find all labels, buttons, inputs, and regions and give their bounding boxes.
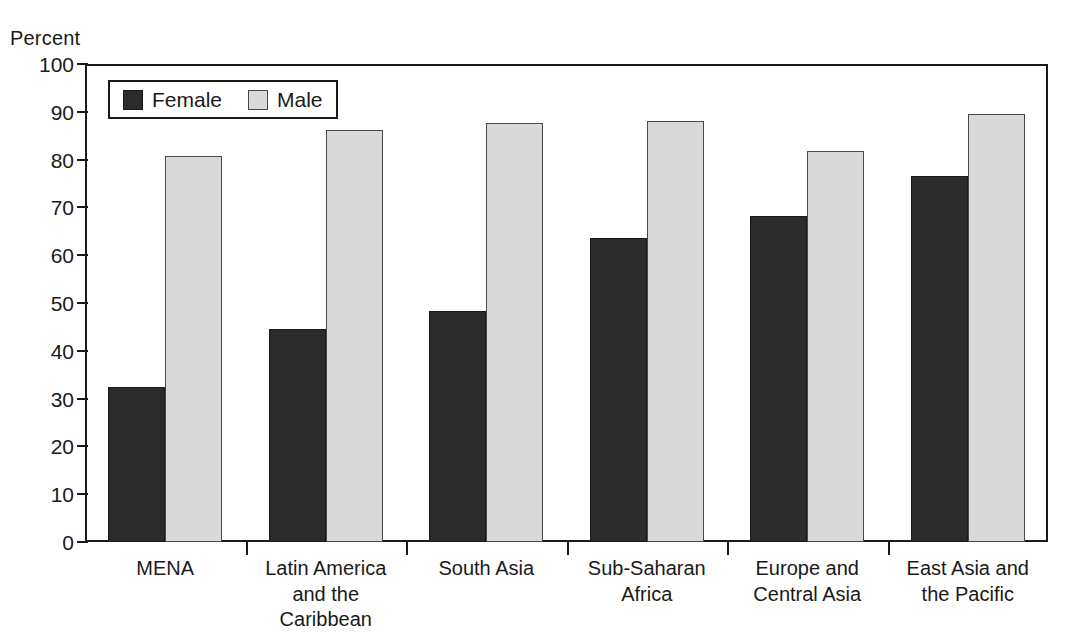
x-axis-label: MENA — [85, 556, 246, 582]
x-axis-label: Europe and Central Asia — [727, 556, 888, 607]
bar-male — [165, 156, 222, 542]
x-tick-mark — [888, 542, 890, 555]
x-axis-label: South Asia — [406, 556, 567, 582]
x-tick-mark — [246, 542, 248, 555]
y-tick-label: 70 — [51, 197, 74, 218]
legend-item-female: Female — [123, 89, 222, 110]
bar-male — [486, 123, 543, 542]
legend-swatch-female-icon — [123, 90, 143, 110]
bar-female — [429, 311, 486, 542]
bar-group — [750, 64, 864, 542]
bar-male — [968, 114, 1025, 542]
y-tick-label: 30 — [51, 388, 74, 409]
x-axis-label: East Asia and the Pacific — [888, 556, 1049, 607]
bar-group — [911, 64, 1025, 542]
legend-swatch-male-icon — [248, 90, 268, 110]
bar-female — [269, 329, 326, 542]
bar-group — [269, 64, 383, 542]
bars-layer — [85, 64, 1048, 542]
bar-female — [911, 176, 968, 542]
bar-female — [108, 387, 165, 542]
bar-female — [590, 238, 647, 542]
legend-label-male: Male — [277, 89, 323, 110]
bar-male — [647, 121, 704, 542]
bar-group — [590, 64, 704, 542]
y-tick-label: 100 — [39, 54, 74, 75]
bar-male — [326, 130, 383, 542]
bar-female — [750, 216, 807, 542]
legend-item-male: Male — [248, 89, 323, 110]
chart-legend: Female Male — [108, 80, 338, 119]
legend-label-female: Female — [152, 89, 222, 110]
bar-chart: Percent 1009080706050403020100 MENALatin… — [0, 0, 1079, 634]
bar-group — [108, 64, 222, 542]
x-tick-mark — [406, 542, 408, 555]
x-tick-mark — [567, 542, 569, 555]
x-axis-label: Latin America and the Caribbean — [246, 556, 407, 633]
x-axis-label: Sub-Saharan Africa — [567, 556, 728, 607]
y-axis-ticks: 1009080706050403020100 — [0, 0, 74, 634]
y-tick-label: 0 — [62, 532, 74, 553]
bar-group — [429, 64, 543, 542]
y-tick-label: 10 — [51, 484, 74, 505]
y-tick-label: 50 — [51, 293, 74, 314]
y-tick-label: 40 — [51, 340, 74, 361]
y-tick-label: 20 — [51, 436, 74, 457]
x-tick-mark — [727, 542, 729, 555]
bar-male — [807, 151, 864, 542]
y-tick-label: 80 — [51, 149, 74, 170]
y-tick-label: 60 — [51, 245, 74, 266]
y-tick-label: 90 — [51, 101, 74, 122]
